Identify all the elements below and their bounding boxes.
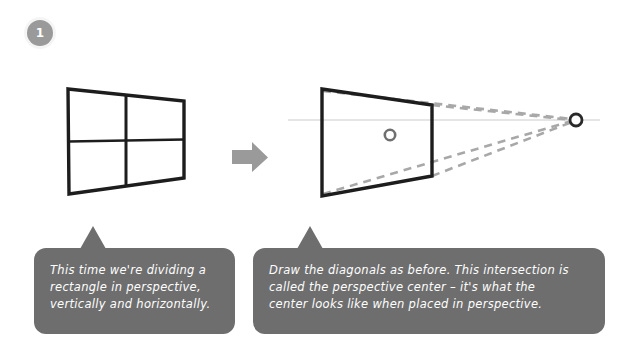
left-caption-bubble: This time we're dividing a rectangle in … [34,248,235,334]
guide-diagonal-bottom-left-to-vanishing-point [323,121,572,194]
left-caption-text: This time we're dividing a rectangle in … [50,262,219,313]
arrow-right-icon [232,142,268,172]
step-number-label: 1 [36,27,44,39]
left-rectangle-outline [68,89,184,194]
right-caption-bubble: Draw the diagonals as before. This inter… [253,248,605,334]
left-horizontal-divider [69,140,185,142]
left-bubble-tail [80,226,106,249]
right-diagram-group [288,89,600,196]
right-caption-text: Draw the diagonals as before. This inter… [269,262,589,313]
perspective-center-marker [385,130,395,140]
right-bubble-tail [297,226,323,249]
illustration-page: 1 [0,0,629,362]
guide-diagonal-top-left-to-vanishing-point [323,91,572,119]
progress-arrow-group [232,142,268,172]
vanishing-point-marker [570,114,582,126]
guide-bottom-edge-to-vanishing-point [432,122,572,176]
guide-top-edge-to-vanishing-point [432,105,572,120]
right-rectangle-outline [322,89,432,196]
left-diagram-group [68,89,184,194]
step-number-badge: 1 [27,20,53,46]
